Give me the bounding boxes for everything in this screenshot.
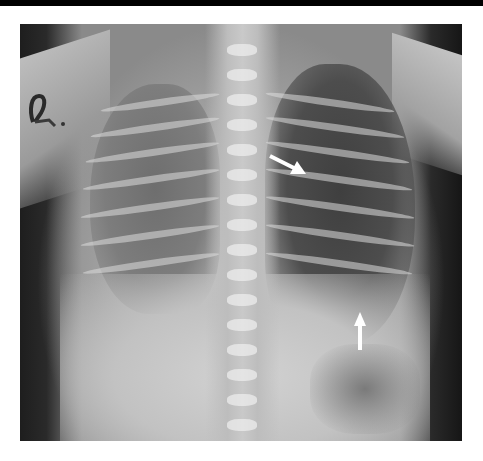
- vertebra: [227, 69, 257, 81]
- vertebra: [227, 419, 257, 431]
- vertebra: [227, 369, 257, 381]
- ecg-lead-clip-icon: [25, 90, 65, 130]
- arrow-down-right-icon: [268, 152, 308, 178]
- vertebra: [227, 169, 257, 181]
- vertebra: [227, 319, 257, 331]
- vertebra: [227, 394, 257, 406]
- vertebra: [227, 294, 257, 306]
- vertebra: [227, 94, 257, 106]
- top-bar: [0, 0, 483, 6]
- vertebra: [227, 44, 257, 56]
- vertebra: [227, 119, 257, 131]
- vertebra: [227, 269, 257, 281]
- chest-xray-image: [20, 24, 462, 441]
- vertebra: [227, 344, 257, 356]
- arrow-up-icon: [352, 312, 368, 352]
- vertebra: [227, 144, 257, 156]
- vertebra: [227, 244, 257, 256]
- vertebra: [227, 194, 257, 206]
- vertebra: [227, 219, 257, 231]
- bowel-gas: [310, 344, 420, 434]
